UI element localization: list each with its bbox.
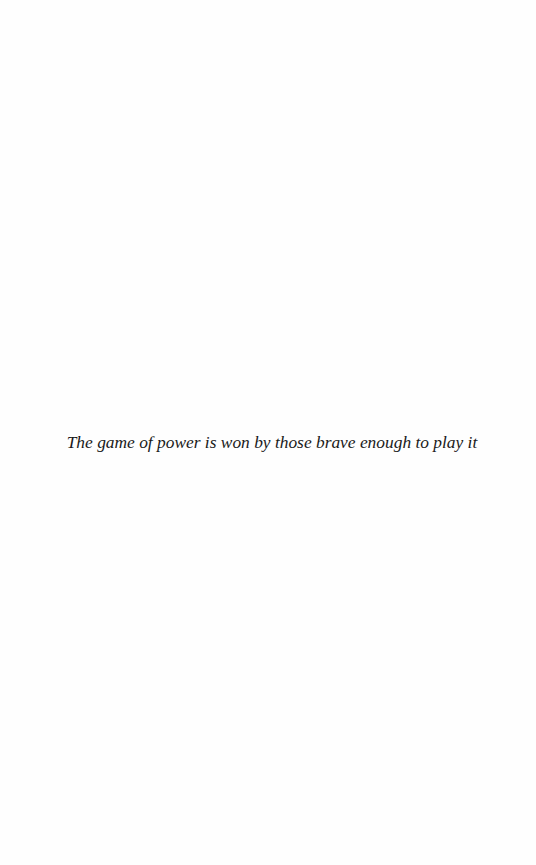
epigraph-text: The game of power is won by those brave … [0, 432, 536, 452]
document-page: The game of power is won by those brave … [0, 0, 536, 865]
